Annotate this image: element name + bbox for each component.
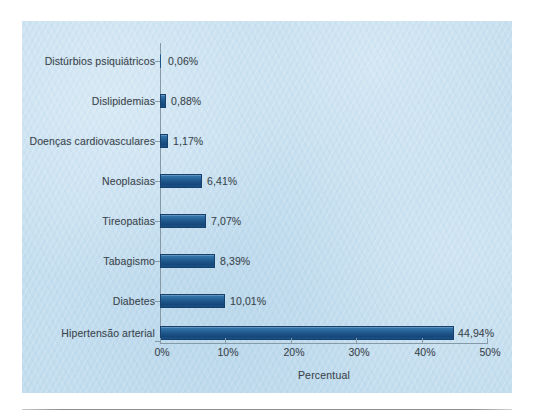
bar [160, 294, 225, 308]
bar [160, 254, 215, 268]
bar-value-label: 7,07% [211, 215, 241, 227]
bar [160, 54, 161, 68]
x-axis-tick-label: 20% [283, 346, 304, 358]
x-axis-tick [422, 338, 423, 343]
bar [160, 174, 202, 188]
bar-value-label: 10,01% [230, 295, 266, 307]
x-axis-tick-label: 0% [154, 346, 169, 358]
category-label: Diabetes [113, 295, 155, 307]
bar-value-label: 8,39% [220, 255, 250, 267]
bar-value-label: 44,94% [458, 327, 494, 339]
category-label: Doenças cardiovasculares [29, 135, 155, 147]
x-axis-tick [356, 338, 357, 343]
category-label: Dislipidemias [92, 95, 155, 107]
bar-value-label: 0,06% [168, 55, 198, 67]
x-axis-tick [487, 338, 488, 343]
bar-value-label: 0,88% [171, 95, 201, 107]
x-axis-tick-label: 30% [348, 346, 369, 358]
bar [160, 326, 454, 340]
category-label: Hipertensão arterial [61, 327, 155, 339]
figure-panel: Distúrbios psiquiátricos 0,06% Dislipide… [22, 21, 512, 393]
category-label: Neoplasias [102, 175, 155, 187]
x-axis-tick [225, 338, 226, 343]
bar [160, 134, 168, 148]
bar [160, 94, 166, 108]
x-axis-tick [160, 338, 161, 343]
bar [160, 214, 206, 228]
x-axis-title: Percentual [160, 369, 488, 381]
category-label: Tireopatias [102, 215, 155, 227]
category-label: Distúrbios psiquiátricos [45, 55, 155, 67]
x-axis-tick-label: 50% [479, 346, 500, 358]
x-axis-line [160, 343, 488, 344]
bar-chart-plot-area: Distúrbios psiquiátricos 0,06% Dislipide… [22, 21, 512, 393]
x-axis-tick-label: 10% [217, 346, 238, 358]
bar-value-label: 1,17% [173, 135, 203, 147]
x-axis-tick-label: 40% [414, 346, 435, 358]
x-axis-tick [291, 338, 292, 343]
footer-divider [22, 409, 512, 410]
category-label: Tabagismo [103, 255, 155, 267]
bar-value-label: 6,41% [207, 175, 237, 187]
